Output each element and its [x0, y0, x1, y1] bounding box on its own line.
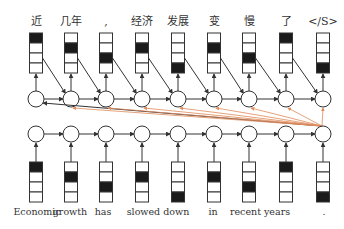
encoder-state-node	[315, 126, 331, 142]
vector-cell	[280, 162, 293, 172]
vector-cell	[65, 172, 78, 182]
vector-cell	[172, 182, 185, 192]
vector-cell	[30, 162, 43, 172]
feed-arrow	[293, 58, 318, 93]
decoder-token-label: 变	[209, 14, 220, 28]
decoder-output-vector	[208, 33, 221, 73]
vector-cell	[243, 33, 256, 43]
vector-cell	[243, 192, 256, 202]
encoder-state-node	[28, 126, 44, 142]
decoder-state-node	[278, 91, 294, 107]
encoder-input-vector	[208, 162, 221, 202]
vector-cell	[65, 192, 78, 202]
vector-cell	[208, 63, 221, 73]
encoder-state-node	[170, 126, 186, 142]
vector-cell	[172, 192, 185, 202]
vector-cell	[30, 182, 43, 192]
vector-cell	[317, 172, 330, 182]
decoder-output-labels: 近几年,经济发展变慢了</S>	[31, 14, 338, 28]
vector-cell	[65, 33, 78, 43]
vector-cell	[172, 172, 185, 182]
vector-cell	[208, 192, 221, 202]
vector-cell	[280, 192, 293, 202]
vector-cell	[100, 33, 113, 43]
encoder-token-label: recent years	[230, 206, 290, 217]
vector-cell	[30, 172, 43, 182]
encoder-input-vector	[136, 162, 149, 202]
vector-cell	[30, 33, 43, 43]
decoder-output-vector	[172, 33, 185, 73]
vector-cell	[65, 63, 78, 73]
decoder-state-node	[98, 91, 114, 107]
encoder-hidden-states	[28, 126, 331, 162]
vector-cell	[100, 63, 113, 73]
vector-cell	[172, 43, 185, 53]
vector-cell	[136, 63, 149, 73]
decoder-state-node	[170, 91, 186, 107]
vector-cell	[172, 162, 185, 172]
vector-cell	[30, 63, 43, 73]
vector-cell	[136, 43, 149, 53]
vector-cell	[172, 63, 185, 73]
vector-cell	[317, 63, 330, 73]
vector-cell	[243, 43, 256, 53]
decoder-token-label: 近	[31, 15, 42, 28]
vector-cell	[100, 192, 113, 202]
encoder-input-vector	[317, 162, 330, 202]
vector-cell	[172, 53, 185, 63]
decoder-output-vectors	[30, 33, 330, 73]
vector-cell	[317, 33, 330, 43]
encoder-state-node	[134, 126, 150, 142]
vector-cell	[136, 172, 149, 182]
encoder-token-label: .	[322, 206, 325, 217]
vector-cell	[136, 162, 149, 172]
decoder-output-vector	[280, 33, 293, 73]
vector-cell	[136, 53, 149, 63]
vector-cell	[136, 182, 149, 192]
vector-cell	[100, 43, 113, 53]
vector-cell	[100, 162, 113, 172]
decoder-output-vector	[136, 33, 149, 73]
decoder-token-label: 了	[281, 15, 292, 28]
decoder-output-vector	[65, 33, 78, 73]
encoder-input-vectors	[30, 162, 330, 202]
vector-cell	[100, 172, 113, 182]
vector-cell	[280, 53, 293, 63]
encoder-token-label: has	[95, 206, 112, 217]
decoder-token-label: 几年	[60, 14, 82, 28]
encoder-input-vector	[172, 162, 185, 202]
decoder-token-label: </S>	[308, 15, 338, 28]
seq2seq-attention-diagram: 近几年,经济发展变慢了</S> Economicgrowthhasslowed …	[0, 0, 344, 229]
vector-cell	[317, 182, 330, 192]
vector-cell	[243, 63, 256, 73]
encoder-token-label: in	[208, 206, 217, 217]
vector-cell	[30, 43, 43, 53]
vector-cell	[30, 192, 43, 202]
decoder-output-vector	[243, 33, 256, 73]
decoder-output-vector	[30, 33, 43, 73]
vector-cell	[280, 63, 293, 73]
encoder-input-vector	[280, 162, 293, 202]
vector-cell	[208, 162, 221, 172]
encoder-input-labels: Economicgrowthhasslowed downinrecent yea…	[13, 206, 325, 217]
decoder-output-vector	[317, 33, 330, 73]
decoder-state-node	[241, 91, 257, 107]
attention-arrow	[322, 108, 323, 126]
encoder-input-vector	[243, 162, 256, 202]
encoder-token-label: growth	[53, 206, 87, 217]
vector-cell	[65, 182, 78, 192]
vector-cell	[172, 33, 185, 43]
vector-cell	[208, 33, 221, 43]
vector-cell	[280, 43, 293, 53]
encoder-state-node	[206, 126, 222, 142]
feed-arrow	[113, 58, 137, 93]
decoder-output-vector	[100, 33, 113, 73]
encoder-state-node	[98, 126, 114, 142]
vector-cell	[280, 33, 293, 43]
encoder-state-node	[278, 126, 294, 142]
vector-cell	[208, 43, 221, 53]
feed-arrow	[256, 58, 281, 93]
vector-cell	[317, 162, 330, 172]
encoder-input-vector	[100, 162, 113, 202]
vector-cell	[208, 182, 221, 192]
